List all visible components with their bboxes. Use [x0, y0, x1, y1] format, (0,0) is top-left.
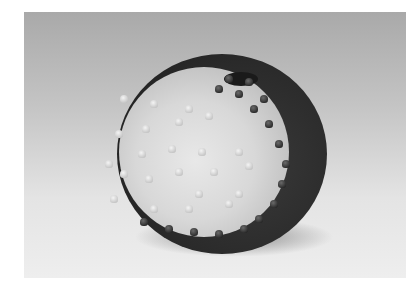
- spike: [198, 148, 206, 156]
- spike: [145, 175, 153, 183]
- spike: [210, 168, 218, 176]
- spike: [140, 218, 148, 226]
- spike: [240, 225, 248, 233]
- spike: [235, 190, 243, 198]
- spike: [260, 95, 268, 103]
- spike: [185, 205, 193, 213]
- spike: [250, 105, 258, 113]
- spike: [205, 112, 213, 120]
- spike: [225, 75, 233, 83]
- spike: [245, 162, 253, 170]
- spike: [115, 130, 123, 138]
- spike: [282, 160, 290, 168]
- spike: [110, 195, 118, 203]
- spike: [120, 170, 128, 178]
- spike: [150, 205, 158, 213]
- spike: [195, 190, 203, 198]
- spike: [175, 168, 183, 176]
- spike: [150, 100, 158, 108]
- spike: [185, 105, 193, 113]
- photograph: [24, 12, 406, 278]
- spike: [142, 125, 150, 133]
- spike: [215, 85, 223, 93]
- spike: [265, 120, 273, 128]
- spike: [175, 118, 183, 126]
- spike: [215, 230, 223, 238]
- spike: [105, 160, 113, 168]
- spike: [120, 95, 128, 103]
- spike: [245, 78, 253, 86]
- spike: [278, 180, 286, 188]
- spike: [270, 200, 278, 208]
- spike: [168, 145, 176, 153]
- spike: [165, 225, 173, 233]
- spike: [225, 200, 233, 208]
- spike: [235, 148, 243, 156]
- spike: [235, 90, 243, 98]
- spike: [275, 140, 283, 148]
- spike: [138, 150, 146, 158]
- spike: [255, 215, 263, 223]
- spike: [190, 228, 198, 236]
